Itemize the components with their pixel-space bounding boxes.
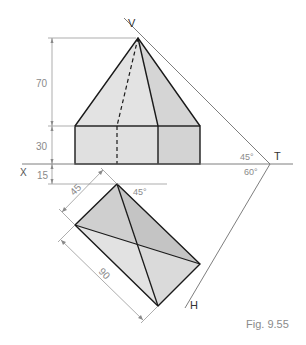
apex-label: V: [128, 17, 136, 29]
plan-view: [75, 184, 200, 306]
prism-face-right: [158, 126, 200, 164]
plan-angle-label: 45°: [133, 187, 147, 197]
dim-label-70: 70: [36, 78, 48, 89]
elevation-view: [75, 38, 200, 164]
x-axis-label: X: [20, 167, 27, 178]
dim-extension-90a: [58, 225, 75, 242]
dim-label-30: 30: [36, 141, 48, 152]
ht-angle-label: 60°: [244, 167, 258, 177]
figure-9-55: X V T H 45° 60° 70 30 15: [0, 0, 306, 345]
figure-caption: Fig. 9.55: [246, 318, 289, 330]
dim-extension-45a: [101, 168, 117, 184]
vt-angle-label: 45°: [240, 152, 254, 162]
horizontal-trace-line: [185, 164, 270, 308]
dim-label-15: 15: [37, 170, 49, 181]
prism-face-left: [75, 126, 158, 164]
dim-extension-45b: [59, 209, 75, 225]
dim-label-90: 90: [97, 266, 113, 282]
dim-extension-90b: [141, 306, 158, 323]
trace-h-label: H: [190, 299, 198, 311]
trace-t-label: T: [274, 150, 281, 162]
